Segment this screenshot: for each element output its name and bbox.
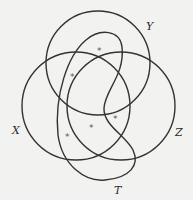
region-marker: * [113,114,118,124]
set-t-label: T [114,184,123,197]
set-x-circle [22,52,130,160]
set-y-label: Y [146,20,155,33]
set-z-label: Z [174,126,183,139]
set-z-circle [67,52,175,160]
venn-diagram: Y X Z T * * * * * [0,0,193,200]
region-marker: * [89,123,94,133]
region-marker: * [70,72,75,82]
region-marker: * [97,46,102,56]
region-marker: * [65,132,70,142]
set-x-label: X [11,124,21,137]
set-y-circle [46,11,150,115]
